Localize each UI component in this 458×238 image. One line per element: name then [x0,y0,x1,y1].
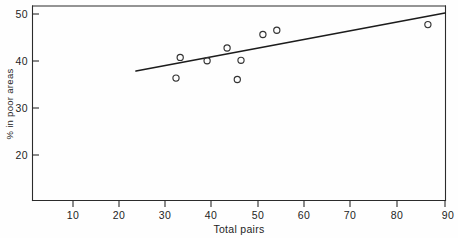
data-point [177,54,183,60]
x-tick-label-70: 70 [344,209,356,221]
x-tick-label-80: 80 [391,209,403,221]
y-axis-ticks [33,14,40,155]
plot-frame [33,6,446,201]
x-axis-tick-labels: 10 20 30 40 50 60 70 80 90 [67,209,454,221]
data-point [260,31,266,37]
scatter-plot-figure: 50 40 30 20 10 20 30 40 50 60 70 80 90 [0,0,458,238]
y-tick-label-50: 50 [16,8,28,20]
x-tick-label-50: 50 [252,209,264,221]
x-axis-title: Total pairs [213,223,264,235]
data-point-group [173,22,431,83]
x-tick-label-60: 60 [298,209,310,221]
data-point [425,22,431,28]
y-tick-label-30: 30 [16,102,28,114]
data-point [204,58,210,64]
x-tick-label-10: 10 [67,209,79,221]
data-point [224,45,230,51]
y-tick-label-20: 20 [16,149,28,161]
regression-trend-line [136,13,445,71]
y-axis-tick-labels: 50 40 30 20 [16,8,28,161]
x-tick-label-40: 40 [205,209,217,221]
data-point [173,75,179,81]
x-tick-label-30: 30 [159,209,171,221]
y-axis-title: % in poor areas [4,68,15,139]
data-point [238,57,244,63]
data-point [274,27,280,33]
x-axis-ticks [73,201,445,208]
chart-canvas: 50 40 30 20 10 20 30 40 50 60 70 80 90 [0,0,458,238]
data-point [234,76,240,82]
y-tick-label-40: 40 [16,55,28,67]
x-tick-label-90: 90 [442,209,454,221]
x-tick-label-20: 20 [113,209,125,221]
